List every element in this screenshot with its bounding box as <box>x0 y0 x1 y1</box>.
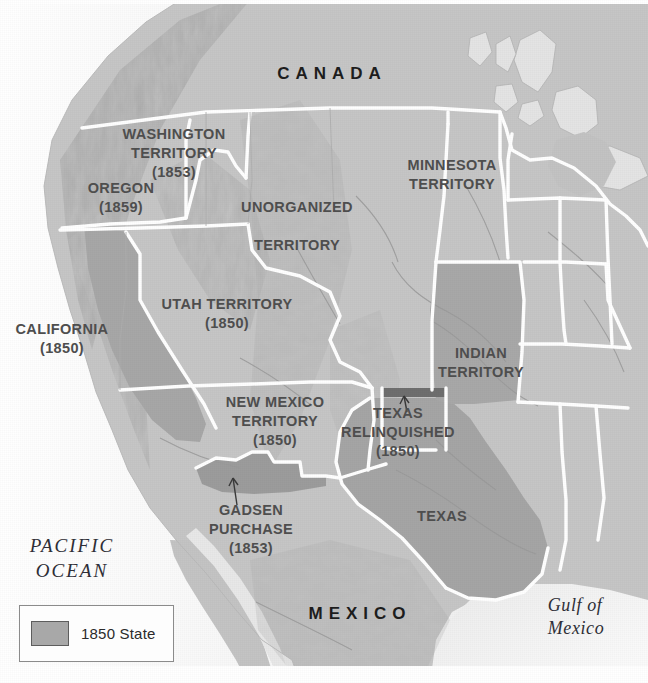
border-state-iowa-s <box>524 262 606 264</box>
border-state-iowa-n <box>508 198 606 200</box>
map-graphic <box>0 0 648 683</box>
top-margin <box>0 0 648 4</box>
map-legend: 1850 State <box>19 605 174 662</box>
legend-swatch-1850-state <box>31 621 69 646</box>
legend-label-1850-state: 1850 State <box>81 625 156 642</box>
territory-indian <box>430 262 524 404</box>
historical-map: CANADA MEXICO PACIFIC OCEAN Gulf of Mexi… <box>0 0 648 683</box>
texas-relinquished-strip <box>382 388 446 397</box>
bottom-margin <box>0 666 648 683</box>
